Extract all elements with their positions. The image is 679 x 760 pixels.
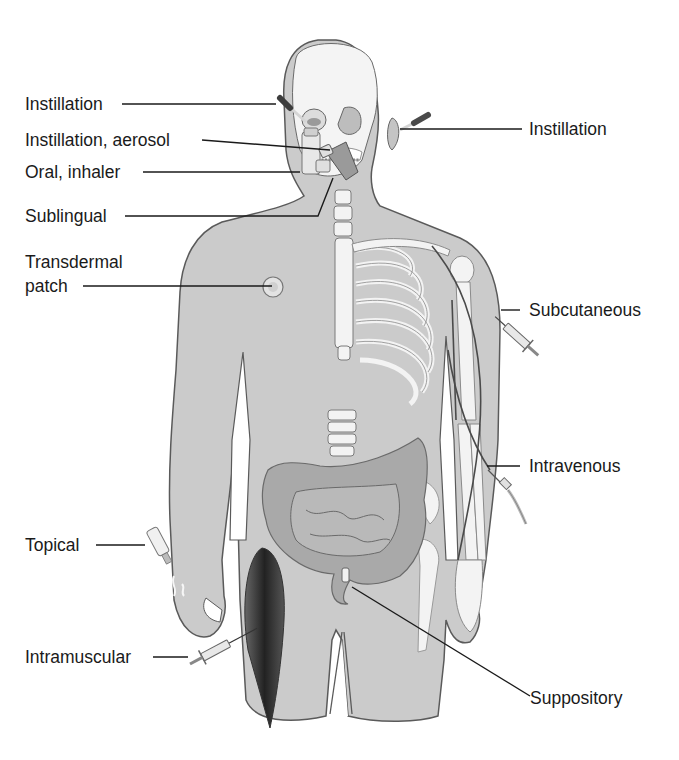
label-oral-inhaler: Oral, inhaler [25,162,120,182]
ear-dropper-icon [400,115,428,130]
label-sublingual: Sublingual [25,206,107,226]
anatomy-figure [0,0,679,760]
label-intramuscular: Intramuscular [25,647,131,667]
label-instillation-ear: Instillation [529,119,607,139]
label-subcutaneous: Subcutaneous [529,300,641,320]
label-instillation-eye: Instillation [25,94,103,114]
label-instillation-aerosol: Instillation, aerosol [25,130,170,150]
label-intravenous: Intravenous [529,456,620,476]
label-transdermal: Transdermal [25,252,123,272]
suppository-icon [342,568,349,582]
label-suppository: Suppository [530,688,622,708]
ear [388,118,399,150]
transdermal-patch [263,277,283,297]
label-topical: Topical [25,535,79,555]
label-transdermal-patch: patch [25,276,68,296]
